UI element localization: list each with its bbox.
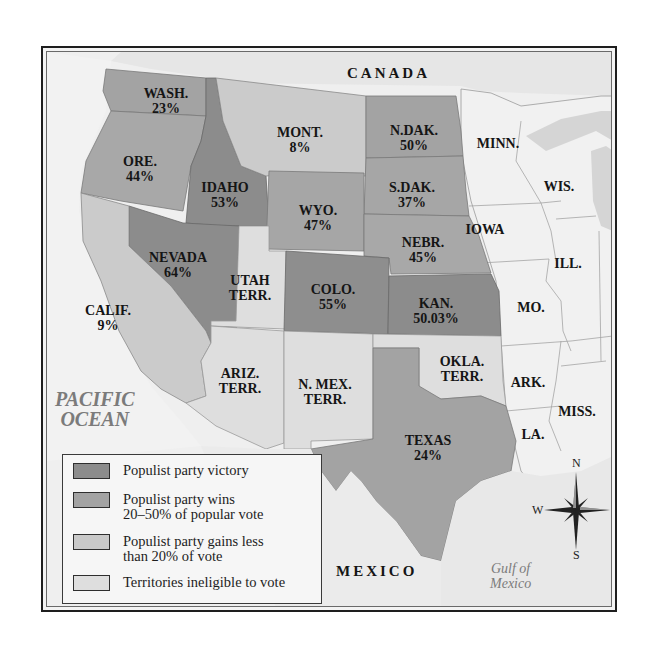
- state-label-calif[interactable]: CALIF.9%: [85, 303, 131, 333]
- state-label-ndak[interactable]: N.DAK.50%: [390, 123, 438, 153]
- state-label-nmex[interactable]: N. MEX.TERR.: [298, 377, 351, 407]
- state-label-mont[interactable]: MONT.8%: [277, 125, 323, 155]
- state-label-ariz[interactable]: ARIZ.TERR.: [219, 366, 261, 396]
- legend-swatch-less-20: [73, 534, 110, 550]
- water-label-gulf-of-mexico: Gulf of Mexico: [490, 561, 531, 591]
- state-label-texas[interactable]: TEXAS24%: [405, 433, 452, 463]
- compass-star-icon: [532, 460, 612, 560]
- map-canvas: CANADA MEXICO PACIFIC OCEAN Gulf of Mexi…: [46, 51, 612, 607]
- state-label-minn[interactable]: MINN.: [477, 136, 519, 151]
- state-label-okla[interactable]: OKLA.TERR.: [440, 354, 485, 384]
- state-label-kan[interactable]: KAN.50.03%: [413, 296, 459, 326]
- compass-south: S: [573, 548, 580, 563]
- legend-swatch-wins-20-50: [73, 492, 110, 508]
- map-frame: CANADA MEXICO PACIFIC OCEAN Gulf of Mexi…: [41, 46, 617, 612]
- legend-label: Populist party wins 20–50% of popular vo…: [123, 492, 264, 522]
- state-label-wash[interactable]: WASH.23%: [144, 86, 189, 116]
- state-label-idaho[interactable]: IDAHO53%: [201, 180, 248, 210]
- state-label-nebr[interactable]: NEBR.45%: [402, 235, 444, 265]
- compass-north: N: [572, 456, 581, 471]
- state-label-wis[interactable]: WIS.: [544, 179, 575, 194]
- state-label-miss[interactable]: MISS.: [558, 404, 596, 419]
- state-label-utah[interactable]: UTAHTERR.: [229, 273, 271, 303]
- state-label-mo[interactable]: MO.: [517, 300, 545, 315]
- legend-swatch-territory: [73, 575, 110, 591]
- state-label-wyo[interactable]: WYO.47%: [299, 203, 338, 233]
- state-label-colo[interactable]: COLO.55%: [311, 282, 356, 312]
- legend-item-less-20: Populist party gains less than 20% of vo…: [73, 534, 264, 564]
- state-label-iowa[interactable]: IOWA: [466, 222, 505, 237]
- legend-label: Populist party victory: [123, 463, 249, 478]
- region-label-canada: CANADA: [347, 65, 430, 82]
- legend-label: Territories ineligible to vote: [123, 575, 285, 590]
- state-label-sdak[interactable]: S.DAK.37%: [389, 180, 435, 210]
- state-label-ill[interactable]: ILL.: [554, 256, 582, 271]
- legend-item-victory: Populist party victory: [73, 463, 249, 479]
- region-label-mexico: MEXICO: [336, 563, 417, 580]
- legend-swatch-victory: [73, 463, 110, 479]
- compass-west: W: [532, 503, 543, 518]
- state-label-nevada[interactable]: NEVADA64%: [149, 250, 207, 280]
- legend-item-territory: Territories ineligible to vote: [73, 575, 285, 591]
- water-label-pacific: PACIFIC OCEAN: [55, 389, 135, 429]
- state-label-la[interactable]: LA.: [522, 427, 545, 442]
- state-label-ark[interactable]: ARK.: [511, 375, 546, 390]
- compass-rose: N S W E: [532, 460, 612, 560]
- map-legend: Populist party victory Populist party wi…: [62, 454, 322, 604]
- legend-item-wins-20-50: Populist party wins 20–50% of popular vo…: [73, 492, 264, 522]
- state-label-ore[interactable]: ORE.44%: [123, 154, 157, 184]
- legend-label: Populist party gains less than 20% of vo…: [123, 534, 264, 564]
